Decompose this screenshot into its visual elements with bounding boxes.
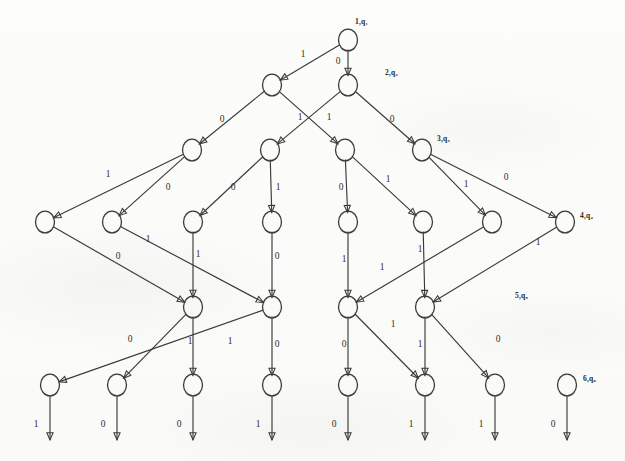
state-node[interactable] — [556, 211, 575, 233]
edge-label: 1 — [327, 112, 332, 122]
edge-label: 1 — [196, 249, 201, 259]
edge-line — [355, 91, 415, 143]
output-arrow — [345, 396, 351, 440]
state-node[interactable] — [261, 139, 280, 161]
state-node[interactable] — [263, 74, 282, 96]
output-label: 1 — [479, 419, 484, 429]
trellis-diagram-svg: 10011010010110011011111010011010010110 1… — [0, 0, 625, 461]
state-node[interactable] — [339, 374, 358, 396]
edge-line — [431, 314, 488, 378]
state-node[interactable] — [108, 374, 127, 396]
arrow-head — [177, 296, 185, 302]
output-arrow — [492, 396, 498, 440]
edge-label: 1 — [188, 336, 193, 346]
edge-label: 1 — [418, 339, 423, 349]
output-label: 1 — [409, 419, 414, 429]
edge-line — [199, 91, 264, 144]
state-node[interactable] — [486, 374, 505, 396]
edge — [431, 314, 488, 378]
state-node[interactable] — [263, 296, 282, 318]
edge — [120, 226, 263, 302]
output-arrow — [190, 396, 196, 440]
edge-label: 1 — [342, 254, 347, 264]
edge-label: 0 — [504, 172, 509, 182]
edge-line — [356, 227, 484, 302]
state-node[interactable] — [184, 296, 203, 318]
edge-line — [120, 226, 263, 302]
edge-label: 1 — [418, 244, 423, 254]
state-node[interactable] — [184, 374, 203, 396]
edge — [59, 310, 263, 382]
state-node[interactable] — [339, 74, 358, 96]
stage-label: 4,q₄ — [580, 211, 593, 220]
state-node[interactable] — [103, 211, 122, 233]
diagram-canvas: 10011010010110011011111010011010010110 1… — [0, 0, 625, 461]
arrow-head — [356, 296, 364, 302]
edge — [345, 50, 351, 76]
state-node[interactable] — [483, 211, 502, 233]
state-node[interactable] — [413, 139, 432, 161]
output-label: 0 — [101, 419, 106, 429]
output-label: 1 — [256, 419, 261, 429]
state-node[interactable] — [184, 211, 203, 233]
stage-label: 3,q₃ — [437, 134, 450, 143]
edge-label: 0 — [116, 251, 121, 261]
edge — [355, 314, 419, 378]
edge-line — [280, 45, 340, 80]
edge-line — [430, 154, 556, 217]
output-arrow — [564, 396, 570, 440]
edge — [344, 159, 350, 212]
edge — [422, 317, 428, 376]
edge — [280, 45, 340, 80]
edge-label: 1 — [276, 182, 281, 192]
state-node[interactable] — [183, 139, 202, 161]
output-label: 0 — [177, 419, 182, 429]
state-node[interactable] — [416, 296, 435, 318]
edge-label: 0 — [275, 251, 280, 261]
edge-line — [345, 159, 347, 212]
edge-line — [54, 154, 184, 218]
edge-label: 1 — [106, 169, 111, 179]
state-node[interactable] — [416, 374, 435, 396]
state-node[interactable] — [339, 29, 358, 51]
state-node[interactable] — [558, 374, 577, 396]
arrow-head — [59, 377, 67, 383]
state-node[interactable] — [414, 211, 433, 233]
edge-label: 1 — [228, 336, 233, 346]
edge-label: 0 — [220, 114, 225, 124]
edge-label: 0 — [339, 182, 344, 192]
edge-line — [124, 314, 187, 378]
state-node[interactable] — [263, 211, 282, 233]
edges-layer — [53, 45, 557, 383]
edge-label: 1 — [146, 234, 151, 244]
edge-label: 1 — [464, 179, 469, 189]
output-label: 0 — [551, 419, 556, 429]
edge — [54, 154, 184, 218]
state-node[interactable] — [336, 139, 355, 161]
edge — [430, 154, 556, 217]
edge — [199, 91, 264, 144]
edge-label: 0 — [336, 56, 341, 66]
arrow-head — [256, 296, 264, 302]
state-node[interactable] — [339, 296, 358, 318]
arrow-head — [54, 212, 62, 218]
edge-label: 1 — [298, 112, 303, 122]
output-arrow — [422, 396, 428, 440]
edge-line — [59, 310, 263, 382]
edge-label: 0 — [128, 334, 133, 344]
edge-label: 1 — [380, 262, 385, 272]
edge-label: 0 — [342, 339, 347, 349]
state-node[interactable] — [41, 374, 60, 396]
edge — [422, 231, 428, 297]
edge-label: 0 — [275, 339, 280, 349]
output-arrows-layer — [47, 396, 570, 440]
edge-label: 0 — [231, 182, 236, 192]
state-node[interactable] — [263, 374, 282, 396]
edge — [269, 232, 275, 298]
output-label: 1 — [34, 419, 39, 429]
edge-label: 0 — [496, 334, 501, 344]
state-node[interactable] — [36, 211, 55, 233]
state-node[interactable] — [339, 211, 358, 233]
edge — [268, 159, 274, 212]
edge-line — [429, 157, 486, 215]
